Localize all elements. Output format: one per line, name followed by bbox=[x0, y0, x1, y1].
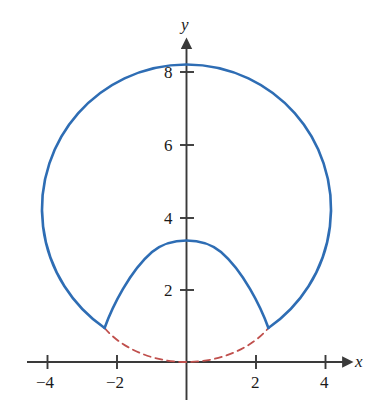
x-tick-label--2: −2 bbox=[106, 374, 124, 391]
y-tick-label-8: 8 bbox=[164, 64, 173, 81]
x-tick-label--4: −4 bbox=[36, 374, 54, 391]
x-tick-label-2: 2 bbox=[251, 374, 260, 391]
x-tick-label-4: 4 bbox=[320, 374, 329, 391]
y-axis-label: y bbox=[181, 16, 189, 33]
y-tick-label-6: 6 bbox=[164, 137, 173, 154]
axis-lines bbox=[27, 47, 344, 400]
y-tick-label-4: 4 bbox=[164, 210, 173, 227]
polar-curve-plot: −4 −2 2 4 2 4 6 8 x y bbox=[0, 0, 378, 409]
x-axis-label: x bbox=[355, 353, 363, 370]
y-tick-label-2: 2 bbox=[164, 282, 173, 299]
plot-canvas bbox=[0, 0, 378, 409]
